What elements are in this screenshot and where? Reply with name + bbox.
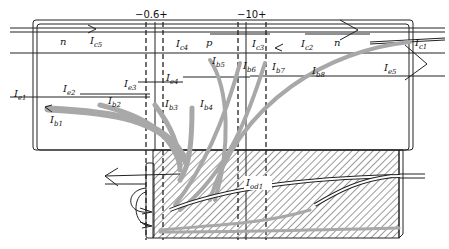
label-ic3: Ic3 xyxy=(251,38,265,52)
label-ie1: Ie1 xyxy=(13,88,27,102)
label-ic5: Ic5 xyxy=(89,35,103,49)
region-n-right: n xyxy=(334,37,340,48)
region-n-left: n xyxy=(60,36,66,47)
label-ie4: Ie4 xyxy=(165,72,179,86)
label-ib6: Ib6 xyxy=(242,60,256,74)
label-ib3: Ib3 xyxy=(164,98,178,112)
label-ib7: Ib7 xyxy=(271,61,285,75)
label-ib1: Ib1 xyxy=(49,114,63,128)
label-ie2: Ie2 xyxy=(62,83,76,97)
current-flow-diagram: −0.6+ −10+ xyxy=(0,0,449,249)
label-ie5: Ie5 xyxy=(383,62,397,76)
label-ic4: Ic4 xyxy=(175,38,188,52)
label-ib4: Ib4 xyxy=(199,98,213,112)
marker-label-a: −0.6+ xyxy=(135,9,168,20)
label-ie3: Ie3 xyxy=(123,78,137,92)
label-ic2: Ic2 xyxy=(300,38,314,52)
wiring-lines xyxy=(10,28,445,97)
marker-label-b: −10+ xyxy=(237,9,266,20)
region-p: p xyxy=(206,37,213,48)
